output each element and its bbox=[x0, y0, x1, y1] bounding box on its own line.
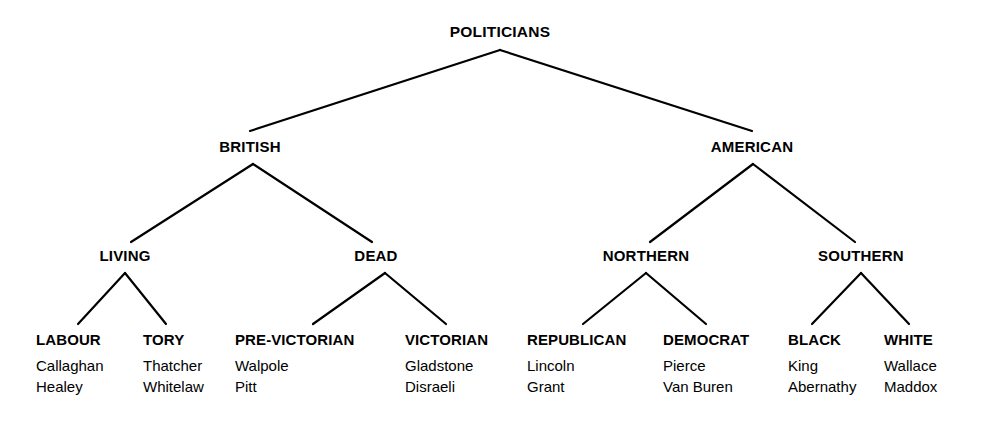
tree-node-dead-label: DEAD bbox=[354, 247, 397, 264]
tree-node-northern: NORTHERN bbox=[603, 248, 690, 263]
tree-leaf-member: Healey bbox=[36, 376, 104, 397]
tree-edge-southern-to-white bbox=[861, 273, 909, 324]
tree-leaf-member-list: CallaghanHealey bbox=[36, 355, 104, 397]
tree-leaf-member: Maddox bbox=[884, 376, 937, 397]
tree-leaf-title: WHITE bbox=[884, 332, 937, 347]
tree-node-northern-label: NORTHERN bbox=[603, 247, 690, 264]
tree-edge-southern-to-black bbox=[812, 273, 861, 324]
tree-leaf-pre-victorian: PRE-VICTORIANWalpolePitt bbox=[235, 332, 354, 397]
tree-node-american: AMERICAN bbox=[711, 139, 793, 154]
tree-leaf-title: DEMOCRAT bbox=[663, 332, 749, 347]
tree-edge-living-to-tory bbox=[125, 273, 166, 324]
tree-edge-politicians-to-british bbox=[250, 50, 500, 131]
tree-node-root-label: POLITICIANS bbox=[450, 23, 550, 40]
tree-node-dead: DEAD bbox=[354, 248, 397, 263]
tree-leaf-democrat: DEMOCRATPierceVan Buren bbox=[663, 332, 749, 397]
tree-leaf-white: WHITEWallaceMaddox bbox=[884, 332, 937, 397]
tree-leaf-title: BLACK bbox=[788, 332, 856, 347]
tree-leaf-member-list: ThatcherWhitelaw bbox=[143, 355, 204, 397]
tree-edge-american-to-northern bbox=[650, 164, 753, 242]
tree-edge-northern-to-democrat bbox=[646, 273, 706, 324]
tree-node-american-label: AMERICAN bbox=[711, 138, 793, 155]
tree-leaf-title: VICTORIAN bbox=[405, 332, 488, 347]
tree-leaf-member: Van Buren bbox=[663, 376, 749, 397]
tree-leaf-member-list: LincolnGrant bbox=[527, 355, 626, 397]
tree-edges bbox=[78, 50, 909, 324]
tree-leaf-member: Thatcher bbox=[143, 355, 204, 376]
tree-node-southern: SOUTHERN bbox=[818, 248, 904, 263]
tree-leaf-member-list: WallaceMaddox bbox=[884, 355, 937, 397]
tree-leaf-member: Disraeli bbox=[405, 376, 488, 397]
tree-leaf-black: BLACKKingAbernathy bbox=[788, 332, 856, 397]
tree-leaf-member: Wallace bbox=[884, 355, 937, 376]
tree-leaf-republican: REPUBLICANLincolnGrant bbox=[527, 332, 626, 397]
tree-leaf-victorian: VICTORIANGladstoneDisraeli bbox=[405, 332, 488, 397]
tree-edge-dead-to-pre-victorian bbox=[313, 273, 385, 324]
tree-leaf-member: Grant bbox=[527, 376, 626, 397]
tree-leaf-title: LABOUR bbox=[36, 332, 104, 347]
tree-node-living: LIVING bbox=[99, 248, 150, 263]
tree-edge-politicians-to-american bbox=[500, 50, 752, 131]
tree-leaf-member-list: GladstoneDisraeli bbox=[405, 355, 488, 397]
tree-node-british-label: BRITISH bbox=[219, 138, 280, 155]
tree-edge-northern-to-republican bbox=[583, 273, 646, 324]
tree-edge-dead-to-victorian bbox=[385, 273, 446, 324]
tree-leaf-member: Walpole bbox=[235, 355, 354, 376]
tree-leaf-member-list: WalpolePitt bbox=[235, 355, 354, 397]
tree-node-southern-label: SOUTHERN bbox=[818, 247, 904, 264]
tree-node-root: POLITICIANS bbox=[450, 24, 550, 40]
tree-leaf-member: King bbox=[788, 355, 856, 376]
tree-node-british: BRITISH bbox=[219, 139, 280, 154]
tree-leaf-member: Callaghan bbox=[36, 355, 104, 376]
tree-edge-american-to-southern bbox=[753, 164, 855, 242]
tree-leaf-member: Whitelaw bbox=[143, 376, 204, 397]
tree-leaf-member-list: PierceVan Buren bbox=[663, 355, 749, 397]
tree-edge-british-to-dead bbox=[253, 164, 372, 242]
tree-leaf-title: REPUBLICAN bbox=[527, 332, 626, 347]
tree-leaf-member: Pitt bbox=[235, 376, 354, 397]
tree-leaf-member: Abernathy bbox=[788, 376, 856, 397]
tree-leaf-member: Pierce bbox=[663, 355, 749, 376]
tree-node-living-label: LIVING bbox=[99, 247, 150, 264]
tree-leaf-title: TORY bbox=[143, 332, 204, 347]
tree-leaf-member-list: KingAbernathy bbox=[788, 355, 856, 397]
tree-leaf-member: Gladstone bbox=[405, 355, 488, 376]
tree-leaf-labour: LABOURCallaghanHealey bbox=[36, 332, 104, 397]
politicians-tree-diagram: POLITICIANS BRITISH AMERICAN LIVING DEAD… bbox=[0, 0, 987, 430]
tree-edge-british-to-living bbox=[131, 164, 253, 242]
tree-edge-living-to-labour bbox=[78, 273, 125, 324]
tree-leaf-title: PRE-VICTORIAN bbox=[235, 332, 354, 347]
tree-leaf-member: Lincoln bbox=[527, 355, 626, 376]
tree-leaf-tory: TORYThatcherWhitelaw bbox=[143, 332, 204, 397]
